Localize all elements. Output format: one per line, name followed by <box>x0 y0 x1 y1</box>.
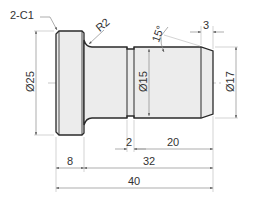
chamfer-note-label: 2-C1 <box>10 9 34 21</box>
fillet-radius-label: R2 <box>93 16 111 34</box>
dia-groove-label: Ø15 <box>137 71 149 92</box>
dia-flange-label: Ø25 <box>24 71 36 92</box>
tip-length-label: 20 <box>167 136 179 148</box>
dia-shank-label: Ø17 <box>224 71 236 92</box>
part-drawing: 2-C1 R2 15° 3 Ø25 Ø15 Ø17 8 2 20 32 40 <box>0 0 255 206</box>
shank-length-label: 32 <box>143 155 155 167</box>
overall-length-label: 40 <box>128 175 140 187</box>
flange <box>56 31 84 135</box>
part-body <box>56 31 213 135</box>
flange-width-label: 8 <box>67 155 73 167</box>
chamfer-angle-label: 15° <box>149 24 166 44</box>
chamfer-length-label: 3 <box>203 19 209 31</box>
groove-width-label: 2 <box>126 136 132 148</box>
